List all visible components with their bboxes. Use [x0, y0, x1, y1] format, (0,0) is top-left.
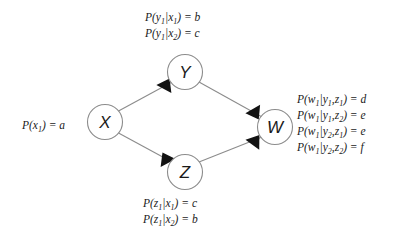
- node-y[interactable]: Y: [168, 55, 203, 90]
- cpt-label-y: P(y1|x1) = b P(y1|x2) = c: [145, 10, 200, 42]
- cpt-line: P(z1|x1) = c: [143, 196, 198, 212]
- cpt-line: P(y1|x2) = c: [145, 26, 200, 42]
- bayesian-network-diagram: X Y Z W P(y1|x1) = b P(y1|x2) = c P(x1) …: [0, 0, 403, 249]
- node-w[interactable]: W: [258, 110, 293, 145]
- cpt-line: P(z1|x2) = b: [143, 212, 198, 228]
- cpt-label-x: P(x1) = a: [22, 118, 65, 134]
- cpt-line: P(w1|y2,z1) = e: [297, 124, 366, 140]
- cpt-line: P(w1|y1,z2) = e: [297, 108, 366, 124]
- cpt-line: P(w1|y1,z1) = d: [297, 92, 366, 108]
- cpt-line: P(w1|y2,z2) = f: [297, 140, 366, 156]
- node-x-label: X: [98, 113, 111, 132]
- node-z[interactable]: Z: [168, 155, 203, 190]
- cpt-label-w: P(w1|y1,z1) = d P(w1|y1,z2) = e P(w1|y2,…: [297, 92, 366, 156]
- cpt-line: P(y1|x1) = b: [145, 10, 200, 26]
- node-z-label: Z: [179, 163, 191, 182]
- node-x[interactable]: X: [88, 105, 123, 140]
- node-w-label: W: [267, 118, 285, 137]
- cpt-label-z: P(z1|x1) = c P(z1|x2) = b: [143, 196, 198, 228]
- cpt-line: P(x1) = a: [22, 118, 65, 134]
- node-y-label: Y: [179, 63, 192, 82]
